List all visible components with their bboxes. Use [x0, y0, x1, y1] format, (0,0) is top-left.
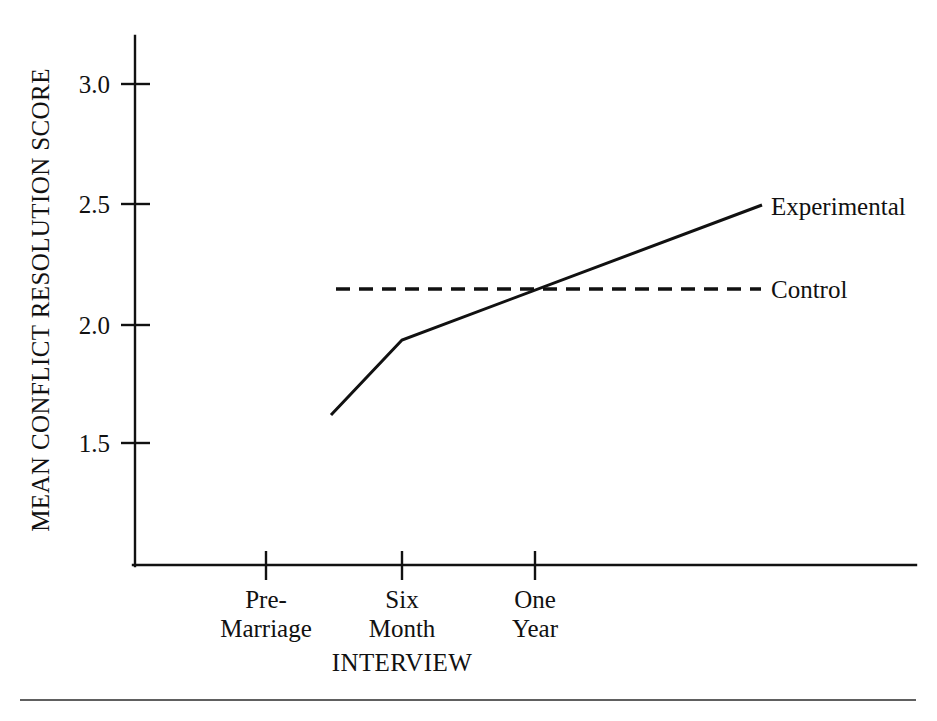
- x-axis-title: INTERVIEW: [252, 648, 552, 678]
- series-label-experimental: Experimental: [771, 192, 906, 222]
- y-tick-label-2-5: 2.5: [40, 190, 110, 220]
- y-tick-label-3-0: 3.0: [40, 70, 110, 100]
- series-label-control: Control: [771, 275, 847, 305]
- y-tick-label-1-5: 1.5: [40, 429, 110, 459]
- x-tick-label-one-year-line2: Year: [440, 614, 630, 644]
- chart-figure: MEAN CONFLICT RESOLUTION SCORE 3.0 2.5 2…: [0, 0, 937, 721]
- x-tick-label-one-year-line1: One: [440, 585, 630, 615]
- series-line-experimental: [331, 205, 762, 415]
- y-tick-label-2-0: 2.0: [40, 311, 110, 341]
- y-axis-title: MEAN CONFLICT RESOLUTION SCORE: [26, 50, 56, 550]
